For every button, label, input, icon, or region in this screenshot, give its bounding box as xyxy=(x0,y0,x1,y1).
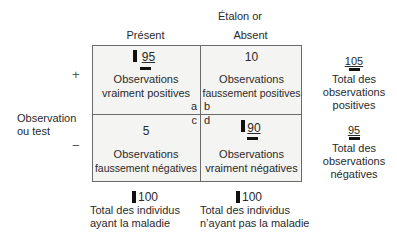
cell-a-value: 95 xyxy=(142,50,155,64)
cell-true-negatives: d 90 Observations vraiment négatives xyxy=(201,115,302,182)
row-total-positive-line2: observations xyxy=(312,86,396,99)
column-total-absent-line1: Total des individus xyxy=(200,204,325,217)
column-total-present: 100 Total des individus ayant la maladie xyxy=(90,190,200,230)
column-total-present-value: 100 xyxy=(138,191,158,204)
cell-true-positives: 95 Observations vraiment positives a xyxy=(93,46,199,113)
row-total-positive-line3: positives xyxy=(312,99,396,112)
row-total-positive-value: 105 xyxy=(345,55,363,67)
row-total-negative-value: 95 xyxy=(348,124,360,136)
cell-b-desc-line1: Observations xyxy=(201,72,302,86)
cell-c-desc-line1: Observations xyxy=(93,147,199,161)
row-label-line1: Observation xyxy=(17,112,76,125)
row-total-positive-line1: Total des xyxy=(312,73,396,86)
cell-value: 90 xyxy=(201,122,302,135)
column-total-absent-line2: n’ayant pas la maladie xyxy=(200,217,325,230)
column-total-present-line1: Total des individus xyxy=(90,204,200,217)
cell-b-desc-line2: faussement positives xyxy=(201,86,302,100)
contingency-table: 95 Observations vraiment positives a 10 … xyxy=(92,45,302,182)
cell-value: 95 xyxy=(93,51,199,64)
positive-sign: + xyxy=(72,68,80,81)
cell-false-negatives: c 5 Observations faussement négatives xyxy=(93,115,199,182)
row-total-negative-line1: Total des xyxy=(312,142,396,155)
redaction-mark xyxy=(247,137,258,140)
cell-c-desc-line2: faussement négatives xyxy=(93,161,199,175)
gold-standard-title: Étalon or xyxy=(200,10,280,23)
negative-sign: − xyxy=(72,139,80,152)
redaction-mark xyxy=(140,67,151,70)
column-header-present: Présent xyxy=(92,29,199,42)
cell-b-value: 10 xyxy=(201,51,302,64)
redaction-mark xyxy=(349,68,360,71)
cell-c-value: 5 xyxy=(93,125,199,138)
column-header-absent: Absent xyxy=(199,29,302,42)
column-total-absent: 100 Total des individus n’ayant pas la m… xyxy=(200,190,325,230)
row-total-negative-line2: observations xyxy=(312,155,396,168)
column-total-absent-value: 100 xyxy=(242,191,262,204)
cell-d-value: 90 xyxy=(247,121,260,135)
row-total-negative: 95 Total des observations négatives xyxy=(312,124,396,181)
cell-a-desc-line2: vraiment positives xyxy=(93,86,199,100)
cell-a-letter: a xyxy=(191,100,197,113)
row-total-negative-line3: négatives xyxy=(312,168,396,181)
cell-d-desc-line2: vraiment négatives xyxy=(201,161,302,175)
row-label-line2: ou test xyxy=(17,125,76,138)
cell-d-desc-line1: Observations xyxy=(201,147,302,161)
cell-false-positives: 10 Observations faussement positives b xyxy=(201,46,302,113)
redaction-mark xyxy=(132,191,136,203)
cell-b-letter: b xyxy=(204,100,210,113)
redaction-mark xyxy=(349,137,360,140)
column-total-present-line2: ayant la maladie xyxy=(90,217,200,230)
row-label: Observation ou test xyxy=(17,112,76,138)
redaction-mark xyxy=(236,191,240,203)
cell-a-desc-line1: Observations xyxy=(93,72,199,86)
row-total-positive: 105 Total des observations positives xyxy=(312,55,396,112)
